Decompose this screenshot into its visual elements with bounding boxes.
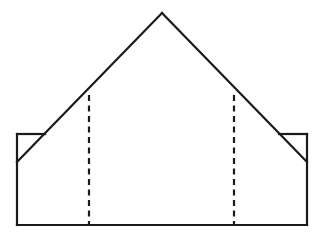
figure-canvas — [0, 0, 324, 246]
tent-net-diagram — [0, 0, 324, 246]
